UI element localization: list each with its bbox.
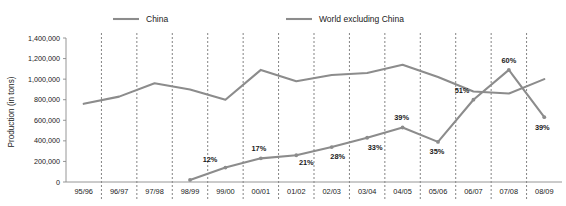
y-axis-title: Production (in tons) [7, 76, 16, 147]
vertical-gridlines [101, 33, 526, 200]
x-tick-label: 97/98 [145, 187, 164, 196]
data-point-label: 33% [368, 143, 383, 152]
x-tick-label: 98/99 [181, 187, 200, 196]
y-tick-label: 400,000 [34, 136, 60, 145]
x-tick-label: 04/05 [393, 187, 412, 196]
data-point-labels: 12%17%21%28%33%39%35%51%60%39% [203, 56, 550, 167]
y-tick-label: 600,000 [34, 116, 60, 125]
y-tick-label: 200,000 [34, 157, 60, 166]
data-point-marker [294, 153, 298, 157]
y-tick-label: 0 [56, 178, 60, 187]
data-point-label: 39% [394, 113, 409, 122]
data-point-label: 12% [203, 155, 218, 164]
x-tick-label: 96/97 [110, 187, 129, 196]
data-point-marker [472, 98, 476, 102]
x-tick-label: 01/02 [287, 187, 306, 196]
x-tick-label: 95/96 [74, 187, 93, 196]
legend-item-china[interactable]: China [113, 14, 168, 24]
x-tick-label: 06/07 [464, 187, 483, 196]
y-tick-label: 800,000 [34, 95, 60, 104]
data-point-label: 28% [330, 152, 345, 161]
x-tick-label: 03/04 [358, 187, 377, 196]
legend-item-world-excluding-china[interactable]: World excluding China [286, 14, 404, 24]
y-tick-label: 1,000,000 [28, 75, 60, 84]
x-tick-label: 07/08 [500, 187, 519, 196]
production-line-chart: ChinaWorld excluding China 0200,000400,0… [0, 0, 566, 206]
y-tick-label: 1,400,000 [28, 34, 60, 43]
data-point-label: 21% [299, 158, 314, 167]
data-point-marker [365, 136, 369, 140]
data-point-label: 60% [501, 56, 516, 65]
data-point-label: 17% [251, 144, 266, 153]
chart-canvas: ChinaWorld excluding China 0200,000400,0… [0, 0, 566, 206]
data-point-marker [259, 156, 263, 160]
x-tick-label: 02/03 [322, 187, 341, 196]
data-point-marker [401, 126, 405, 130]
data-point-label: 51% [455, 86, 470, 95]
y-axis: 0200,000400,000600,000800,0001,000,0001,… [28, 34, 66, 187]
x-tick-label: 00/01 [252, 187, 271, 196]
data-point-label: 35% [430, 147, 445, 156]
data-point-marker [224, 166, 228, 170]
data-series [84, 65, 546, 182]
legend-label: World excluding China [319, 14, 404, 24]
legend-label: China [146, 14, 168, 24]
data-point-marker [542, 115, 546, 119]
chart-legend: ChinaWorld excluding China [113, 14, 404, 24]
y-tick-label: 1,200,000 [28, 54, 60, 63]
data-point-marker [436, 140, 440, 144]
x-tick-label: 05/06 [429, 187, 448, 196]
data-point-marker [188, 178, 192, 182]
x-tick-label: 99/00 [216, 187, 235, 196]
x-tick-label: 08/09 [535, 187, 554, 196]
data-point-marker [507, 68, 511, 72]
data-point-label: 39% [535, 123, 550, 132]
data-point-marker [330, 145, 334, 149]
